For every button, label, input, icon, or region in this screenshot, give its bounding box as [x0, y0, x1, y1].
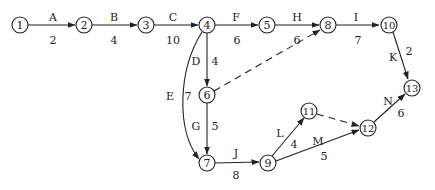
label-C: C [169, 11, 177, 24]
duration-H: 6 [294, 34, 301, 47]
duration-F: 6 [234, 34, 241, 47]
duration-J: 8 [233, 169, 240, 182]
label-A: A [48, 11, 58, 24]
duration-E: 7 [185, 90, 192, 103]
label-B: B [110, 11, 118, 24]
svg-text:8: 8 [325, 19, 332, 32]
node-3: 3 [138, 17, 154, 33]
activity-labels: A 2 B 4 C 10 F 6 H 6 I 7 D 4 E 7 G 5 J 8… [48, 11, 412, 182]
node-13: 13 [404, 80, 420, 96]
node-8: 8 [320, 17, 336, 33]
label-L: L [276, 127, 284, 140]
label-F: F [232, 11, 240, 24]
duration-G: 5 [212, 120, 219, 133]
label-H: H [292, 11, 302, 24]
dummy-6-8 [214, 30, 320, 91]
svg-text:12: 12 [362, 123, 375, 134]
svg-text:10: 10 [383, 20, 396, 31]
svg-text:13: 13 [406, 83, 419, 94]
label-I: I [354, 11, 358, 24]
svg-text:4: 4 [204, 19, 211, 32]
duration-D: 4 [212, 55, 219, 68]
node-10: 10 [381, 17, 397, 33]
duration-B: 4 [111, 34, 118, 47]
svg-text:6: 6 [204, 89, 211, 102]
duration-K: 2 [406, 45, 413, 58]
edges [28, 25, 408, 163]
duration-N: 6 [398, 107, 405, 120]
label-J: J [233, 147, 238, 160]
label-G: G [192, 120, 201, 133]
label-D: D [192, 55, 201, 68]
duration-L: 4 [291, 138, 298, 151]
network-diagram: A 2 B 4 C 10 F 6 H 6 I 7 D 4 E 7 G 5 J 8… [0, 0, 435, 190]
node-4: 4 [199, 17, 215, 33]
duration-A: 2 [50, 34, 57, 47]
svg-text:3: 3 [143, 19, 150, 32]
node-2: 2 [76, 17, 92, 33]
svg-text:5: 5 [264, 19, 271, 32]
node-9: 9 [260, 155, 276, 171]
dummy-11-12 [317, 114, 359, 126]
node-12: 12 [360, 120, 376, 136]
svg-text:11: 11 [303, 106, 316, 117]
node-11: 11 [301, 103, 317, 119]
label-N: N [383, 95, 393, 108]
duration-C: 10 [166, 34, 180, 47]
node-5: 5 [259, 17, 275, 33]
label-M: M [312, 135, 323, 148]
duration-M: 5 [321, 150, 328, 163]
node-1: 1 [12, 17, 28, 33]
svg-text:2: 2 [81, 19, 88, 32]
label-K: K [389, 51, 398, 64]
label-E: E [166, 90, 174, 103]
arrow-J [215, 162, 259, 163]
svg-text:7: 7 [204, 157, 211, 170]
svg-text:1: 1 [17, 19, 24, 32]
node-6: 6 [199, 87, 215, 103]
node-7: 7 [199, 155, 215, 171]
duration-I: 7 [355, 34, 362, 47]
svg-text:9: 9 [265, 157, 272, 170]
